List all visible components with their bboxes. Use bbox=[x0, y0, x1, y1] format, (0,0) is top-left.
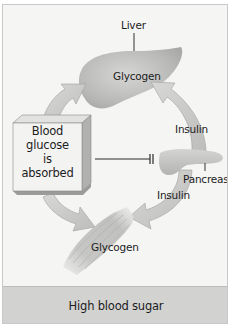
pancreas-label: Pancreas bbox=[183, 174, 228, 185]
box-line-3: is bbox=[14, 152, 81, 166]
arrow-pancreas-to-liver bbox=[151, 82, 206, 151]
insulin-label-upper: Insulin bbox=[175, 124, 208, 135]
diagram-caption: High blood sugar bbox=[69, 299, 164, 313]
liver-glycogen-label: Glycogen bbox=[113, 71, 161, 82]
liver-label: Liver bbox=[121, 20, 146, 31]
box-line-4: absorbed bbox=[14, 166, 81, 180]
diagram-stage: Liver Glycogen Insulin Pancreas Insulin … bbox=[3, 5, 228, 286]
inhibition-line bbox=[95, 154, 153, 164]
box-line-2: glucose bbox=[14, 138, 81, 152]
insulin-label-lower: Insulin bbox=[157, 190, 190, 201]
arrow-box-to-muscle bbox=[43, 193, 95, 231]
diagram-frame: Liver Glycogen Insulin Pancreas Insulin … bbox=[2, 4, 228, 324]
glucose-box-text: Blood glucose is absorbed bbox=[14, 124, 81, 180]
diagram-caption-bar: High blood sugar bbox=[3, 286, 228, 324]
box-line-1: Blood bbox=[14, 124, 81, 138]
muscle-glycogen-label: Glycogen bbox=[91, 242, 139, 253]
